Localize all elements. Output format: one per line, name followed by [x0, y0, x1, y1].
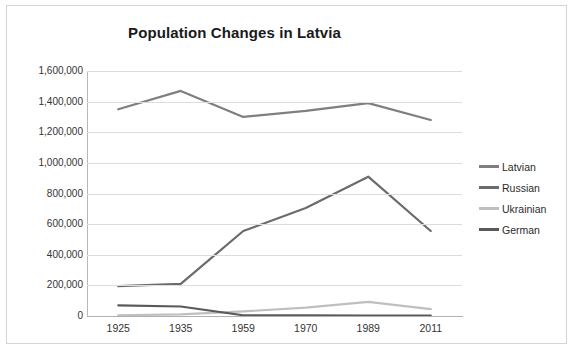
x-tick-label: 1959: [213, 322, 273, 334]
legend-item-russian[interactable]: Russian: [479, 177, 569, 198]
legend-label: German: [502, 224, 540, 236]
legend-label: Ukrainian: [502, 203, 546, 215]
legend: LatvianRussianUkrainianGerman: [479, 156, 569, 240]
gridline: [87, 102, 462, 103]
y-tick-label: 400,000: [13, 250, 83, 260]
y-tick-label: 1,400,000: [13, 97, 83, 107]
x-tick-label: 1970: [276, 322, 336, 334]
legend-label: Latvian: [502, 161, 536, 173]
x-axis-line: [87, 316, 463, 317]
x-tick-label: 1989: [338, 322, 398, 334]
legend-label: Russian: [502, 182, 540, 194]
series-line-ukrainian: [118, 302, 431, 315]
y-tick-label: 600,000: [13, 219, 83, 229]
chart-container: Population Changes in Latvia 1,600,0001,…: [6, 5, 567, 344]
y-axis: 1,600,0001,400,0001,200,0001,000,000800,…: [11, 6, 83, 351]
y-tick-label: 1,200,000: [13, 127, 83, 137]
y-tick-label: 1,600,000: [13, 66, 83, 76]
y-tick-label: 800,000: [13, 189, 83, 199]
y-tick-label: 200,000: [13, 280, 83, 290]
legend-swatch-icon: [479, 228, 499, 231]
y-tick-label: 0: [13, 311, 83, 321]
series-line-latvian: [118, 91, 431, 120]
legend-swatch-icon: [479, 207, 499, 210]
legend-swatch-icon: [479, 165, 499, 168]
legend-item-german[interactable]: German: [479, 219, 569, 240]
legend-item-ukrainian[interactable]: Ukrainian: [479, 198, 569, 219]
gridline: [87, 163, 462, 164]
x-tick-label: 1935: [151, 322, 211, 334]
gridline: [87, 285, 462, 286]
gridline: [87, 194, 462, 195]
x-tick-label: 1925: [88, 322, 148, 334]
gridline: [87, 71, 462, 72]
gridline: [87, 132, 462, 133]
gridline: [87, 255, 462, 256]
x-tick-label: 2011: [401, 322, 461, 334]
legend-item-latvian[interactable]: Latvian: [479, 156, 569, 177]
plot-area: [87, 71, 462, 316]
y-tick-label: 1,000,000: [13, 158, 83, 168]
legend-swatch-icon: [479, 186, 499, 189]
gridline: [87, 224, 462, 225]
